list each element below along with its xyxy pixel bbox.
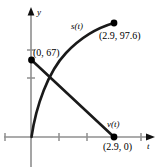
figure-container: y t s(t) v(t) (0, 67) (2.9, 97.6) (2.9, … <box>0 0 162 167</box>
v-line-label: v(t) <box>107 120 120 129</box>
t-axis-label: t <box>147 142 150 151</box>
s-curve-label: s(t) <box>71 22 83 31</box>
point-label-s-endpoint: (2.9, 97.6) <box>99 31 141 41</box>
y-axis-arrowhead <box>28 7 35 16</box>
point-label-y-intercept: (0, 67) <box>33 48 60 58</box>
point-marker-s-endpoint <box>111 20 118 27</box>
point-marker-v-zero <box>111 134 118 141</box>
y-axis-label: y <box>37 8 41 17</box>
x-axis-arrowhead <box>146 133 155 140</box>
point-label-v-zero: (2.9, 0) <box>103 142 132 152</box>
v-line-path <box>32 60 115 137</box>
